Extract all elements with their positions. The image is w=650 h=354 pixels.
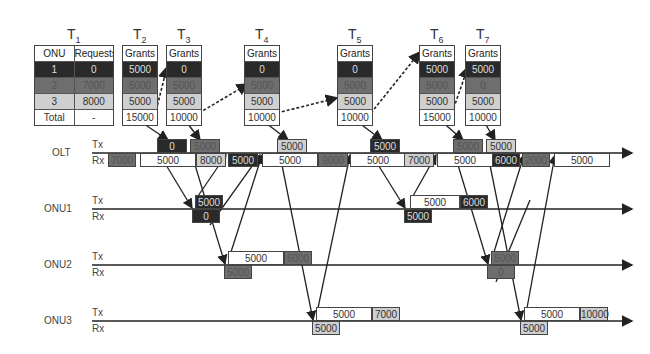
table-cell: 5000	[167, 94, 201, 109]
grant-table-t6: Grants50005000500015000	[419, 45, 455, 126]
table-cell: 10000	[245, 110, 279, 125]
header-cell: Grants	[420, 46, 454, 61]
header-cell: ONU	[35, 46, 74, 61]
onu3-rx-block: 5000	[520, 321, 548, 335]
table-title-t7: T7	[476, 26, 490, 45]
olt-tx-block: 5000	[190, 139, 220, 153]
epon-dba-timing-diagram: T1ONURequests102700038000Total-T2Grants5…	[0, 0, 650, 354]
table-cell: 0	[338, 62, 372, 77]
table-header: Grants	[123, 46, 157, 61]
table-row: 5000	[245, 93, 279, 109]
onu3-label: ONU3	[44, 315, 72, 326]
table-row: 10000	[466, 109, 500, 125]
onu1-tx-block: 6000	[460, 195, 488, 209]
olt-rx-block: 9000	[318, 153, 348, 167]
table-title-t2: T2	[133, 26, 147, 45]
olt-rx-block: 2000	[522, 153, 550, 167]
olt-rx-block: 5000	[554, 153, 610, 167]
onu1-label: ONU1	[44, 203, 72, 214]
table-cell: 5000	[420, 94, 454, 109]
table-cell: 5000	[420, 78, 454, 93]
grant-table-t7: Grants50000500010000	[465, 45, 501, 126]
olt-rx-block: 5000	[228, 153, 258, 167]
table-cell: 0	[466, 78, 500, 93]
onu3-rx-block: 5000	[312, 321, 340, 335]
onu1-rx-block: 5000	[404, 209, 432, 223]
onu1-tx-label: Tx	[92, 195, 103, 206]
olt-label: OLT	[52, 147, 71, 158]
table-row: 27000	[35, 77, 113, 93]
onu2-tx-block: 5000	[228, 251, 284, 265]
onu3-rx-label: Rx	[92, 323, 104, 334]
table-cell: 1	[35, 62, 74, 77]
onu2-label: ONU2	[44, 259, 72, 270]
table-cell: 5000	[466, 62, 500, 77]
table-title-t4: T4	[255, 26, 269, 45]
table-cell: 5000	[420, 62, 454, 77]
table-cell: 0	[245, 62, 279, 77]
table-cell: 5000	[123, 62, 157, 77]
grant-table-t1: ONURequests102700038000Total-	[34, 45, 114, 126]
olt-tx-block: 5000	[486, 139, 516, 153]
table-row: 10000	[245, 109, 279, 125]
header-cell: Grants	[245, 46, 279, 61]
table-row: 5000	[123, 61, 157, 77]
onu3-tx-block: 5000	[524, 307, 580, 321]
olt-rx-block: 7000	[108, 153, 136, 167]
table-cell: -	[74, 110, 114, 125]
table-cell: 5000	[466, 94, 500, 109]
table-cell: 0	[74, 62, 114, 77]
table-row: 38000	[35, 93, 113, 109]
onu3-tx-block: 10000	[580, 307, 608, 321]
table-title-t3: T3	[177, 26, 191, 45]
table-cell: 15000	[420, 110, 454, 125]
header-cell: Grants	[466, 46, 500, 61]
table-cell: 10000	[466, 110, 500, 125]
table-row: 10000	[167, 109, 201, 125]
grant-table-t4: Grants05000500010000	[244, 45, 280, 126]
olt-rx-block: 8000	[196, 153, 226, 167]
table-header: Grants	[420, 46, 454, 61]
header-cell: Requests	[74, 46, 114, 61]
header-cell: Grants	[167, 46, 201, 61]
table-row: 5000	[338, 77, 372, 93]
table-row: 10000	[338, 109, 372, 125]
table-row: 10	[35, 61, 113, 77]
olt-rx-block: 5000	[140, 153, 196, 167]
onu2-rx-label: Rx	[92, 267, 104, 278]
table-cell: 5000	[123, 78, 157, 93]
table-title-t6: T6	[430, 26, 444, 45]
table-cell: Total	[35, 110, 74, 125]
table-row: 5000	[338, 93, 372, 109]
table-cell: 10000	[338, 110, 372, 125]
table-row: 0	[466, 77, 500, 93]
table-header: ONURequests	[35, 46, 113, 61]
table-cell: 5000	[167, 78, 201, 93]
table-cell: 5000	[245, 94, 279, 109]
table-row: 0	[338, 61, 372, 77]
table-row: 15000	[123, 109, 157, 125]
onu1-tx-block: 5000	[195, 195, 223, 209]
onu1-tx-block: 5000	[410, 195, 460, 209]
olt-rx-block: 5000	[350, 153, 406, 167]
table-cell: 5000	[123, 94, 157, 109]
table-cell: 0	[167, 62, 201, 77]
table-title-t1: T1	[67, 26, 81, 45]
table-cell: 5000	[338, 94, 372, 109]
grant-table-t2: Grants50005000500015000	[122, 45, 158, 126]
grant-table-t5: Grants05000500010000	[337, 45, 373, 126]
olt-tx-block: 5000	[277, 139, 307, 153]
onu2-rx-block: 0	[487, 265, 515, 279]
olt-rx-block: 5000	[437, 153, 493, 167]
olt-tx-block: 5000	[453, 139, 483, 153]
table-header: Grants	[245, 46, 279, 61]
header-cell: Grants	[338, 46, 372, 61]
table-row: 5000	[466, 61, 500, 77]
onu2-rx-block: 5000	[224, 265, 252, 279]
table-cell: 7000	[74, 78, 114, 93]
onu1-rx-label: Rx	[92, 211, 104, 222]
table-cell: 2	[35, 78, 74, 93]
table-header: Grants	[338, 46, 372, 61]
table-row: 0	[245, 61, 279, 77]
olt-rx-block: 5000	[262, 153, 318, 167]
